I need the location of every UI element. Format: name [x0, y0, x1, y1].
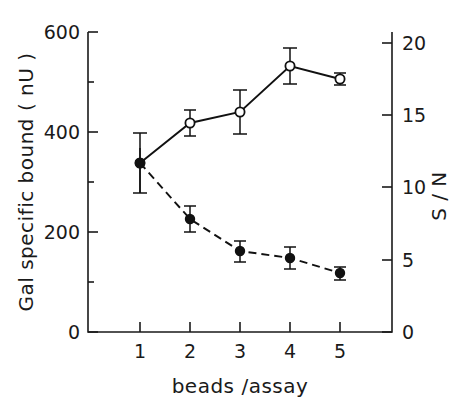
left-tick-label-400: 400 [44, 121, 80, 143]
bottom-tick-label-4: 4 [284, 340, 296, 362]
data-point-filled-5[interactable] [336, 269, 345, 278]
plot-frame [88, 32, 392, 332]
series-signal-to-noise [136, 159, 346, 280]
data-point-filled-3[interactable] [236, 247, 245, 256]
right-tick-label-20: 20 [402, 32, 426, 54]
bottom-tick-label-3: 3 [234, 340, 246, 362]
data-point-filled-1[interactable] [136, 159, 145, 168]
bottom-axis-ticks [140, 322, 340, 332]
data-point-open-3[interactable] [235, 107, 244, 116]
figure-panel: 600 400 200 0 20 15 10 5 0 1 2 3 4 5 Gal… [0, 0, 459, 413]
y-axis-title: Gal specific bound ( nU ) [14, 52, 38, 311]
scatter-line-chart: 600 400 200 0 20 15 10 5 0 1 2 3 4 5 Gal… [0, 0, 459, 413]
y2-axis-title: S / N [427, 171, 451, 221]
left-axis-ticks [88, 32, 98, 332]
right-tick-label-10: 10 [402, 176, 426, 198]
axis-frame-path [88, 32, 392, 332]
right-tick-label-5: 5 [402, 249, 414, 271]
bottom-tick-label-1: 1 [134, 340, 146, 362]
right-axis-ticks [382, 43, 392, 332]
left-tick-label-0: 0 [68, 321, 80, 343]
right-tick-label-0: 0 [402, 321, 414, 343]
right-tick-label-15: 15 [402, 104, 426, 126]
data-point-open-5[interactable] [335, 74, 344, 83]
left-tick-label-600: 600 [44, 21, 80, 43]
bottom-tick-label-5: 5 [334, 340, 346, 362]
data-point-open-4[interactable] [285, 61, 294, 70]
data-point-filled-4[interactable] [286, 254, 295, 263]
left-tick-label-200: 200 [44, 221, 80, 243]
data-point-open-2[interactable] [185, 118, 194, 127]
data-point-filled-2[interactable] [186, 215, 195, 224]
series-gal-specific-bound [133, 48, 346, 193]
x-axis-title: beads /assay [172, 374, 309, 398]
bottom-tick-label-2: 2 [184, 340, 196, 362]
